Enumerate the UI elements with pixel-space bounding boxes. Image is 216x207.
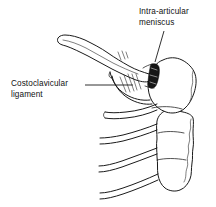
- label-costoclavicular-ligament: Costoclavicular ligament: [11, 79, 68, 100]
- anatomy-figure: Intra-articular meniscus Costoclavicular…: [0, 0, 216, 207]
- sternum-body-outline: [157, 110, 194, 191]
- rib-1: [104, 104, 158, 119]
- label-costoclavicular-line-1: Costoclavicular: [11, 79, 68, 90]
- rib-2: [100, 124, 157, 144]
- label-meniscus-line-1: Intra-articular: [139, 7, 189, 18]
- rib-3: [99, 148, 157, 172]
- label-intra-articular-meniscus: Intra-articular meniscus: [139, 7, 189, 28]
- rib-4: [100, 174, 158, 199]
- meniscus-leader-line: [155, 31, 164, 62]
- clavicle-surface-ticks: [118, 51, 128, 60]
- sternoclavicular-joint-drawing: [0, 0, 216, 207]
- label-meniscus-line-2: meniscus: [139, 18, 189, 29]
- label-costoclavicular-line-2: ligament: [11, 90, 68, 101]
